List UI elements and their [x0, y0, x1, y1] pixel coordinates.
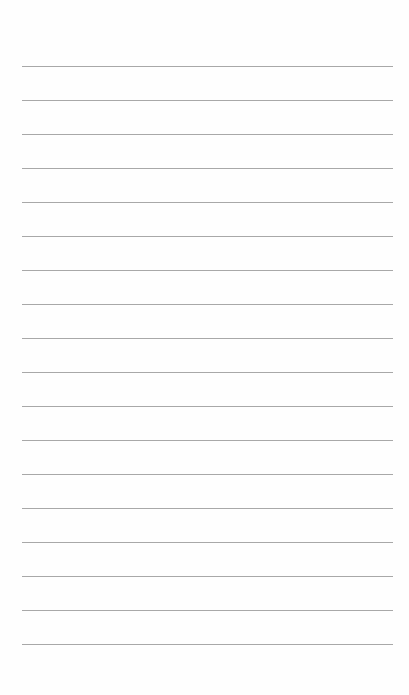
lined-page [0, 0, 409, 695]
ruled-line [22, 236, 393, 237]
ruled-line [22, 338, 393, 339]
ruled-line [22, 406, 393, 407]
ruled-line [22, 508, 393, 509]
ruled-line [22, 304, 393, 305]
ruled-line [22, 134, 393, 135]
ruled-line [22, 440, 393, 441]
ruled-line [22, 100, 393, 101]
ruled-line [22, 610, 393, 611]
ruled-line [22, 372, 393, 373]
ruled-line [22, 202, 393, 203]
ruled-line [22, 270, 393, 271]
ruled-line [22, 168, 393, 169]
ruled-line [22, 542, 393, 543]
ruled-line [22, 66, 393, 67]
ruled-line [22, 576, 393, 577]
ruled-line [22, 644, 393, 645]
ruled-line [22, 474, 393, 475]
